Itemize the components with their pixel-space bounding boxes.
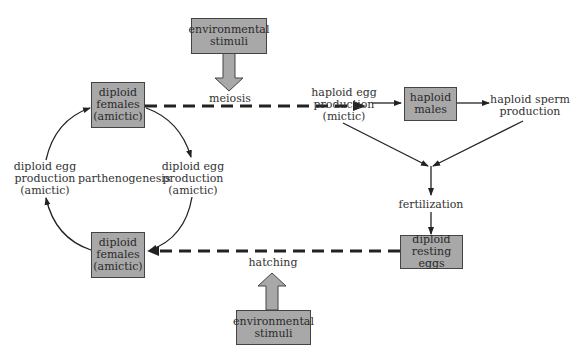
stimulus-arrow-down-icon — [215, 53, 243, 91]
box-label: environmental stimuli — [233, 316, 314, 340]
rotifer-life-cycle-diagram: environmental stimuli diploid females (a… — [0, 0, 574, 361]
environmental-stimuli-bottom-box: environmental stimuli — [236, 310, 311, 345]
box-label: diploid females (amictic) — [93, 87, 142, 123]
haploid-egg-production-label: haploid egg production (mictic) — [310, 87, 378, 123]
box-label: haploid males — [410, 92, 451, 116]
stimulus-arrow-up-icon — [258, 273, 286, 310]
fertilization-label: fertilization — [398, 199, 464, 211]
diploid-females-top-box: diploid females (amictic) — [91, 82, 145, 128]
haploid-sperm-production-label: haploid sperm production — [490, 94, 570, 118]
diploid-egg-production-left-label: diploid egg production (amictic) — [12, 161, 78, 197]
box-label: diploid females (amictic) — [93, 237, 142, 273]
diploid-females-bottom-box: diploid females (amictic) — [91, 232, 145, 278]
parthenogenesis-label: parthenogenesis — [78, 173, 160, 185]
meiosis-label: meiosis — [205, 93, 255, 105]
haploid-males-box: haploid males — [404, 87, 457, 121]
box-label: environmental stimuli — [189, 24, 270, 48]
box-label: diploid resting eggs — [401, 234, 462, 270]
environmental-stimuli-top-box: environmental stimuli — [191, 18, 267, 54]
hatching-label: hatching — [245, 257, 301, 269]
diploid-resting-eggs-box: diploid resting eggs — [400, 235, 463, 269]
